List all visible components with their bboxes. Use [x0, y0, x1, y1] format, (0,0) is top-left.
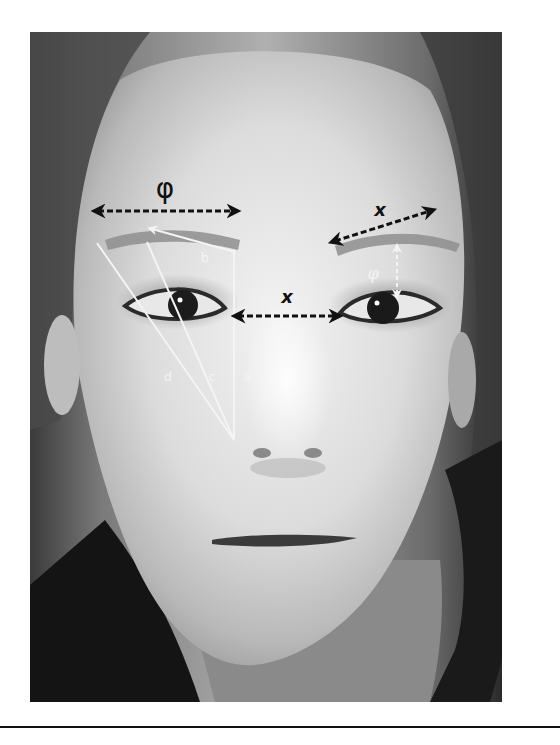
eye-glint-right	[375, 301, 380, 306]
eye-glint-left	[178, 298, 183, 303]
label-a: a	[243, 369, 251, 384]
nose-highlight	[243, 300, 333, 460]
label-b: b	[201, 250, 209, 265]
ear-left	[44, 315, 80, 415]
label-phi-brow-width: φ	[156, 172, 174, 205]
label-x-brow-arch: x	[373, 199, 387, 220]
face-illustration: φ x x φ b a c d	[30, 32, 502, 702]
label-phi-brow-eye-gap: φ	[367, 264, 379, 283]
ear-right	[448, 332, 476, 428]
iris-right	[367, 292, 399, 324]
annotated-face-figure: φ x x φ b a c d	[30, 32, 502, 702]
nose-base-shadow	[250, 458, 326, 478]
nostril-left	[253, 448, 271, 458]
label-c: c	[208, 369, 215, 384]
label-d: d	[164, 369, 172, 384]
label-x-intercanthal: x	[280, 286, 294, 307]
nostril-right	[304, 448, 322, 458]
horizontal-rule	[0, 726, 560, 728]
iris-left	[168, 290, 198, 320]
